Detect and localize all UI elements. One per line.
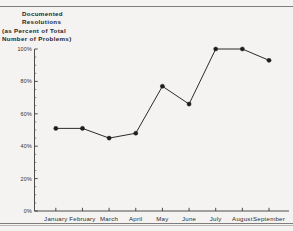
x-tick-label: July [210, 215, 223, 222]
series-marker-point [54, 126, 58, 130]
line-chart: 0%20%40%60%80%100% JanuaryFebruaryMarchA… [0, 40, 293, 225]
x-axis-tick-labels: JanuaryFebruaryMarchAprilMayJuneJulyAugu… [44, 215, 285, 222]
page-rule-bottom [0, 223, 293, 224]
y-tick-label: 100% [17, 46, 32, 52]
chart-title-line-3: (as Percent of Total [2, 27, 162, 35]
page-rule-top [0, 6, 293, 7]
x-tick-label: September [253, 215, 285, 222]
x-tick-label: April [129, 215, 142, 222]
series-marker-point [134, 131, 138, 135]
x-axis: JanuaryFebruaryMarchAprilMayJuneJulyAugu… [35, 208, 290, 222]
chart-title-line-2: Resolutions [2, 18, 162, 26]
x-tick-label: January [44, 215, 68, 222]
page-rule-bottom-secondary [0, 225, 293, 226]
y-axis: 0%20%40%60%80%100% [17, 46, 37, 214]
series-marker-point [240, 47, 244, 51]
y-axis-ticks [35, 49, 38, 211]
chart-svg: 0%20%40%60%80%100% JanuaryFebruaryMarchA… [0, 40, 293, 225]
x-tick-label: August [232, 215, 253, 222]
chart-title: Documented Resolutions (as Percent of To… [2, 10, 162, 44]
x-tick-label: February [69, 215, 96, 222]
y-tick-label: 0% [24, 208, 32, 214]
y-tick-label: 80% [21, 78, 32, 84]
y-axis-tick-labels: 0%20%40%60%80%100% [17, 46, 32, 214]
series-line [56, 49, 269, 138]
y-tick-label: 40% [21, 143, 32, 149]
series-marker-point [80, 126, 84, 130]
series-marker-point [187, 102, 191, 106]
chart-title-line-1: Documented [2, 10, 162, 18]
scanned-page: Documented Resolutions (as Percent of To… [0, 0, 293, 231]
x-axis-ticks [56, 208, 269, 211]
x-tick-label: March [100, 215, 118, 222]
y-tick-label: 20% [21, 176, 32, 182]
y-tick-label: 60% [21, 111, 32, 117]
series-marker-point [160, 84, 164, 88]
series-marker-point [267, 58, 271, 62]
series-marker-point [107, 136, 111, 140]
x-tick-label: June [182, 215, 197, 222]
x-tick-label: May [156, 215, 169, 222]
data-series [54, 47, 271, 140]
series-markers [54, 47, 271, 140]
series-marker-point [214, 47, 218, 51]
